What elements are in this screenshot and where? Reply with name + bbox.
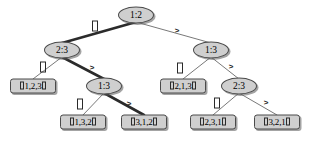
permutation-leaf-label: 1,2,3 <box>19 81 46 91</box>
tree-edge <box>239 93 277 115</box>
permutation-leaf: 1,2,3 <box>10 79 56 94</box>
permutation-leaf-label: 2,3,1 <box>199 117 226 127</box>
permutation-leaf: 3,2,1 <box>254 115 300 130</box>
permutation-leaf: 2,1,3 <box>160 79 206 94</box>
edge-label-greater-than: > <box>229 63 234 71</box>
comparison-node: 1:3 <box>86 78 122 95</box>
left-bracket-glyph-icon <box>170 82 174 90</box>
permutation-leaf: 3,1,2 <box>121 115 167 130</box>
missing-glyph-box-icon <box>214 98 220 109</box>
comparison-node: 1:3 <box>193 42 229 59</box>
permutation-leaf-label: 2,1,3 <box>169 81 196 91</box>
tree-edge <box>62 57 104 79</box>
edge-label-greater-than: > <box>90 64 95 72</box>
missing-glyph-box-icon <box>92 21 98 32</box>
right-bracket-glyph-icon <box>222 118 226 126</box>
edge-label-greater-than: > <box>264 99 269 107</box>
decision-tree-diagram: 1:22:31:31,2,31:32,1,32:31,3,23,1,22,3,1… <box>0 0 311 142</box>
missing-glyph-box-icon <box>177 63 183 74</box>
tree-edge <box>104 93 144 115</box>
left-bracket-glyph-icon <box>20 82 24 90</box>
left-bracket-glyph-icon <box>131 118 135 126</box>
edge-label-greater-than: > <box>127 100 132 108</box>
permutation-leaf-label: 3,1,2 <box>130 117 157 127</box>
comparison-node-label: 2:3 <box>56 45 68 55</box>
edge-label-less-or-equal <box>40 62 46 75</box>
left-bracket-glyph-icon <box>200 118 204 126</box>
edge-label-less-or-equal <box>77 99 83 112</box>
permutation-leaf-label: 3,2,1 <box>263 117 290 127</box>
tree-edge <box>62 22 136 43</box>
right-bracket-glyph-icon <box>192 82 196 90</box>
tree-edge <box>211 57 239 79</box>
comparison-node: 2:3 <box>221 78 257 95</box>
right-bracket-glyph-icon <box>153 118 157 126</box>
comparison-node-label: 1:2 <box>130 10 142 20</box>
left-bracket-glyph-icon <box>264 118 268 126</box>
permutation-leaf-label: 1,3,2 <box>69 117 96 127</box>
tree-edge <box>136 22 211 43</box>
comparison-node-label: 1:3 <box>98 81 110 91</box>
left-bracket-glyph-icon <box>70 118 74 126</box>
comparison-node: 1:2 <box>118 7 154 24</box>
tree-edge <box>183 57 211 79</box>
comparison-node: 2:3 <box>44 42 80 59</box>
tree-edge <box>83 93 104 115</box>
comparison-node-label: 1:3 <box>205 45 217 55</box>
missing-glyph-box-icon <box>40 62 46 73</box>
edge-label-less-or-equal <box>214 98 220 111</box>
right-bracket-glyph-icon <box>92 118 96 126</box>
edge-label-less-or-equal <box>177 63 183 76</box>
permutation-leaf: 1,3,2 <box>60 115 106 130</box>
permutation-leaf: 2,3,1 <box>190 115 236 130</box>
tree-edge <box>33 57 62 79</box>
right-bracket-glyph-icon <box>286 118 290 126</box>
right-bracket-glyph-icon <box>42 82 46 90</box>
edge-label-greater-than: > <box>175 27 180 35</box>
edge-label-less-or-equal <box>92 21 98 34</box>
missing-glyph-box-icon <box>77 99 83 110</box>
comparison-node-label: 2:3 <box>233 81 245 91</box>
